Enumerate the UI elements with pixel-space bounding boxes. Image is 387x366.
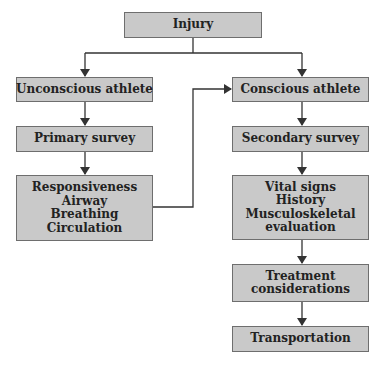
- node-vitals-line-2: History: [276, 194, 326, 208]
- node-vitals-line-3: Musculoskeletal: [245, 208, 355, 222]
- node-secondary-survey: Secondary survey: [232, 126, 369, 152]
- node-abc-line-4: Circulation: [47, 222, 123, 236]
- node-vitals-line-4: evaluation: [265, 221, 335, 235]
- node-vitals-line-1: Vital signs: [265, 181, 336, 195]
- node-injury: Injury: [124, 12, 262, 38]
- node-conscious-athlete-label: Conscious athlete: [241, 83, 361, 97]
- node-responsiveness-abc: Responsiveness Airway Breathing Circulat…: [16, 175, 153, 241]
- node-abc-line-3: Breathing: [51, 208, 119, 222]
- node-unconscious-athlete: Unconscious athlete: [16, 77, 153, 102]
- node-unconscious-athlete-label: Unconscious athlete: [16, 83, 153, 97]
- node-primary-survey-label: Primary survey: [34, 132, 135, 146]
- edge-abc-conscious: [153, 89, 231, 207]
- node-secondary-survey-label: Secondary survey: [242, 132, 359, 146]
- node-vital-signs: Vital signs History Musculoskeletal eval…: [232, 175, 369, 240]
- flowchart: Injury Unconscious athlete Conscious ath…: [0, 0, 387, 366]
- node-conscious-athlete: Conscious athlete: [232, 77, 369, 102]
- node-treatment-line-2: considerations: [251, 283, 350, 297]
- node-primary-survey: Primary survey: [16, 126, 153, 152]
- node-treatment-line-1: Treatment: [266, 270, 336, 284]
- node-transportation-label: Transportation: [250, 332, 351, 346]
- node-abc-line-1: Responsiveness: [32, 181, 137, 195]
- node-injury-label: Injury: [173, 18, 214, 32]
- node-abc-line-2: Airway: [62, 195, 107, 209]
- node-treatment-considerations: Treatment considerations: [232, 264, 369, 302]
- node-transportation: Transportation: [232, 326, 369, 352]
